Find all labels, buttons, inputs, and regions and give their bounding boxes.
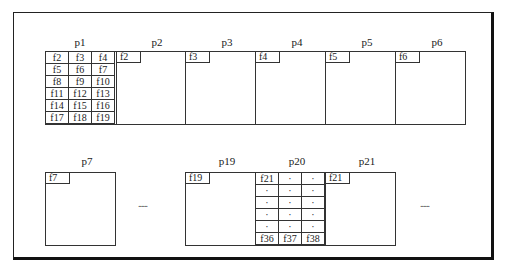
p1-grid: f2f3f4 f5f6f7 f8f9f10 f11f12f13 f14f15f1…	[45, 51, 115, 124]
grid-cell: f7	[92, 64, 115, 76]
grid-cell: f18	[69, 112, 92, 124]
grid-cell: f4	[92, 52, 115, 64]
grid-cell: f12	[69, 88, 92, 100]
grid-cell: f14	[46, 100, 69, 112]
frame-tag: f19	[185, 172, 210, 184]
label-p3: p3	[192, 36, 262, 48]
frame-tag: f2	[116, 51, 141, 63]
page-box-p2: f2	[116, 51, 186, 125]
page-box-p5: f5	[325, 51, 396, 125]
grid-cell: f6	[69, 64, 92, 76]
grid-cell: ·	[279, 173, 302, 185]
label-p20: p20	[262, 155, 332, 167]
grid-cell: ·	[302, 209, 325, 221]
grid-cell: ·	[279, 197, 302, 209]
label-p19: p19	[192, 155, 262, 167]
page-box-p6: f6	[395, 51, 466, 125]
frame-tag: f6	[395, 51, 420, 63]
grid-cell: f36	[256, 233, 279, 245]
grid-cell: f11	[46, 88, 69, 100]
grid-cell: ·	[279, 185, 302, 197]
label-p2: p2	[122, 36, 192, 48]
grid-cell: f13	[92, 88, 115, 100]
ellipsis-right: ......	[420, 198, 429, 209]
p20-grid: f21·· ··· ··· ··· ··· f36f37f38	[255, 172, 325, 245]
grid-cell: f5	[46, 64, 69, 76]
grid-cell: f21	[256, 173, 279, 185]
frame-tag: f4	[255, 51, 280, 63]
grid-cell: f17	[46, 112, 69, 124]
grid-cell: ·	[279, 209, 302, 221]
grid-cell: ·	[302, 185, 325, 197]
frame-tag: f21	[325, 172, 350, 184]
ellipsis-left: ......	[138, 198, 147, 209]
grid-cell: f37	[279, 233, 302, 245]
grid-cell: ·	[302, 173, 325, 185]
frame-tag: f7	[45, 172, 70, 184]
grid-cell: ·	[279, 221, 302, 233]
label-p6: p6	[402, 36, 472, 48]
grid-cell: ·	[256, 221, 279, 233]
grid-cell: ·	[256, 197, 279, 209]
label-p5: p5	[332, 36, 402, 48]
page-box-p21: f21	[325, 172, 396, 246]
grid-cell: ·	[256, 185, 279, 197]
page-box-p4: f4	[255, 51, 326, 125]
grid-cell: f3	[69, 52, 92, 64]
grid-cell: ·	[256, 209, 279, 221]
grid-cell: f16	[92, 100, 115, 112]
grid-cell: f19	[92, 112, 115, 124]
grid-cell: f9	[69, 76, 92, 88]
page-box-p7: f7	[45, 172, 116, 246]
label-p4: p4	[262, 36, 332, 48]
grid-cell: f15	[69, 100, 92, 112]
label-p7: p7	[52, 155, 122, 167]
page-box-p19: f19	[185, 172, 256, 246]
page-box-p3: f3	[185, 51, 256, 125]
grid-cell: f10	[92, 76, 115, 88]
frame-tag: f3	[185, 51, 210, 63]
label-p1: p1	[45, 36, 115, 48]
grid-cell: f2	[46, 52, 69, 64]
grid-cell: ·	[302, 197, 325, 209]
frame-tag: f5	[325, 51, 350, 63]
grid-cell: ·	[302, 221, 325, 233]
label-p21: p21	[332, 155, 402, 167]
grid-cell: f8	[46, 76, 69, 88]
grid-cell: f38	[302, 233, 325, 245]
